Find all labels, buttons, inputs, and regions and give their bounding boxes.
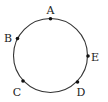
point-e-label: E [91, 51, 99, 64]
point-c-dot [21, 79, 25, 83]
points-group: ABECD [4, 4, 99, 99]
point-d-label: D [77, 86, 86, 99]
point-c-label: C [13, 86, 21, 99]
point-e-dot [86, 54, 90, 58]
point-d-dot [76, 80, 80, 84]
point-b-label: B [4, 32, 12, 45]
point-a-label: A [46, 4, 56, 17]
point-b-dot [16, 37, 20, 41]
point-a-dot [49, 17, 53, 21]
circle-diagram: ABECD [0, 0, 108, 102]
